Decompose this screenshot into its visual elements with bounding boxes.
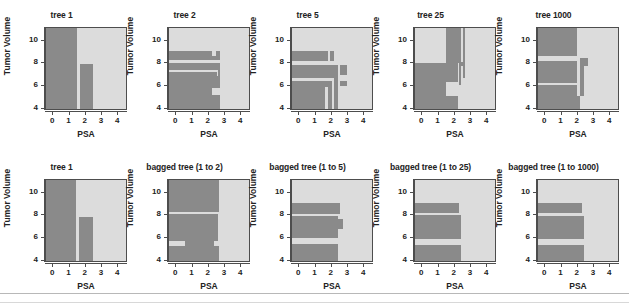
x-tick — [454, 112, 455, 115]
x-tick-label: 0 — [291, 268, 305, 277]
y-axis-line — [44, 27, 45, 110]
y-tick-label: 8 — [280, 58, 284, 66]
x-tick — [486, 264, 487, 267]
x-tick — [315, 112, 316, 115]
y-tick-label: 10 — [29, 188, 38, 196]
panel-0: tree 10123446810PSATumor Volume — [0, 0, 123, 146]
x-tick — [438, 112, 439, 115]
x-axis-line — [45, 111, 127, 112]
x-tick — [69, 112, 70, 115]
x-tick — [85, 112, 86, 115]
y-axis-line — [536, 27, 537, 110]
x-tick-label: 2 — [570, 116, 584, 125]
plot-area — [45, 179, 127, 262]
y-tick-label: 10 — [398, 36, 407, 44]
y-axis-title: Tumor Volume — [125, 157, 135, 240]
region-dark-1 — [80, 64, 93, 109]
x-axis-line — [168, 111, 250, 112]
y-axis-line — [167, 179, 168, 262]
panel-title: bagged tree (1 to 2) — [123, 162, 246, 172]
y-tick-label: 8 — [157, 210, 161, 218]
y-tick-label: 8 — [526, 58, 530, 66]
y-tick — [164, 260, 167, 261]
y-tick-label: 10 — [275, 188, 284, 196]
x-tick — [421, 112, 422, 115]
y-axis-title: Tumor Volume — [2, 157, 12, 240]
x-axis-title: PSA — [537, 129, 619, 139]
x-tick — [224, 112, 225, 115]
region-dark-1 — [169, 88, 212, 95]
x-tick-label: 2 — [78, 268, 92, 277]
x-axis-title: PSA — [45, 129, 127, 139]
x-axis-title: PSA — [537, 281, 619, 291]
y-tick-label: 10 — [398, 188, 407, 196]
region-dark-6 — [169, 56, 220, 60]
decision-surface — [45, 179, 127, 262]
y-axis-title: Tumor Volume — [2, 5, 12, 88]
panel-9: bagged tree (1 to 1000)0123446810PSATumo… — [492, 152, 615, 298]
x-tick-label: 3 — [463, 268, 477, 277]
x-tick — [298, 112, 299, 115]
y-tick-label: 4 — [280, 256, 284, 264]
y-tick — [287, 237, 290, 238]
y-tick — [287, 40, 290, 41]
y-tick — [41, 85, 44, 86]
panel-3: tree 250123446810PSATumor Volume — [369, 0, 492, 146]
y-tick — [410, 85, 413, 86]
region-dark-0 — [538, 96, 580, 109]
y-axis-title: Tumor Volume — [248, 5, 258, 88]
x-tick — [240, 264, 241, 267]
region-dark-3 — [538, 61, 577, 83]
y-tick-label: 4 — [403, 104, 407, 112]
y-tick — [164, 214, 167, 215]
panel-title: tree 1 — [0, 10, 123, 20]
y-tick — [41, 40, 44, 41]
panel-8: bagged tree (1 to 25)0123446810PSATumor … — [369, 152, 492, 298]
y-tick — [41, 214, 44, 215]
y-tick — [533, 260, 536, 261]
x-tick — [544, 112, 545, 115]
x-tick — [561, 264, 562, 267]
region-dark-2 — [169, 76, 220, 89]
x-tick — [438, 264, 439, 267]
region-dark-5 — [538, 28, 577, 56]
x-tick — [331, 112, 332, 115]
x-axis-title: PSA — [414, 281, 496, 291]
x-axis-line — [414, 263, 496, 264]
region-dark-5 — [169, 63, 220, 70]
decision-surface — [291, 179, 373, 262]
x-tick — [544, 264, 545, 267]
region-dark-4 — [292, 65, 338, 79]
x-tick-label: 1 — [62, 116, 76, 125]
y-tick — [287, 192, 290, 193]
region-dark-6 — [459, 62, 464, 66]
y-tick — [533, 108, 536, 109]
y-tick — [164, 108, 167, 109]
x-tick-label: 0 — [45, 116, 59, 125]
y-axis-title: Tumor Volume — [494, 157, 504, 240]
y-axis-title: Tumor Volume — [248, 157, 258, 240]
x-tick — [577, 264, 578, 267]
x-tick — [486, 112, 487, 115]
x-tick — [101, 112, 102, 115]
region-dark-0 — [169, 95, 220, 109]
y-tick — [410, 192, 413, 193]
region-dark-6 — [340, 81, 348, 87]
y-tick — [164, 237, 167, 238]
plot-area — [168, 27, 250, 110]
x-tick — [101, 264, 102, 267]
decision-surface — [45, 27, 127, 110]
x-axis-line — [537, 111, 619, 112]
x-tick — [347, 264, 348, 267]
panel-1: tree 20123446810PSATumor Volume — [123, 0, 246, 146]
y-axis-title: Tumor Volume — [371, 157, 381, 240]
x-tick-label: 2 — [324, 268, 338, 277]
x-tick — [363, 264, 364, 267]
x-tick-label: 3 — [217, 268, 231, 277]
x-tick-label: 2 — [447, 268, 461, 277]
y-tick — [533, 237, 536, 238]
y-tick-label: 4 — [34, 256, 38, 264]
x-tick-label: 3 — [340, 116, 354, 125]
x-tick-label: 1 — [185, 116, 199, 125]
region-dark-0 — [292, 244, 338, 261]
